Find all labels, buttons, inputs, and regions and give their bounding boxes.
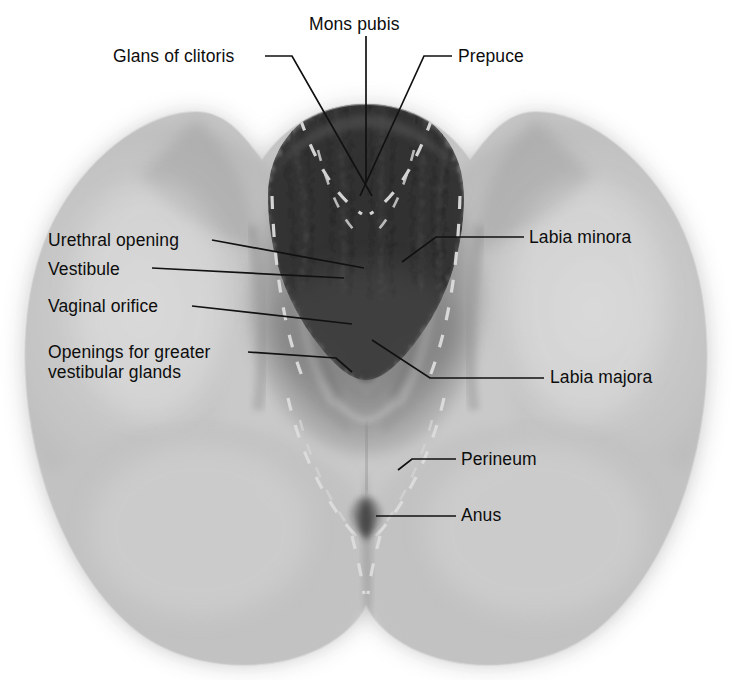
- mons-pubis-region: [270, 264, 462, 396]
- label-labia-majora: Labia majora: [550, 367, 652, 387]
- label-perineum: Perineum: [461, 449, 537, 469]
- label-labia-minora: Labia minora: [529, 227, 631, 247]
- label-prepuce: Prepuce: [458, 46, 524, 66]
- perineum-region: [366, 424, 368, 494]
- vulva-anatomy-illustration: [0, 0, 732, 680]
- label-anus: Anus: [461, 505, 501, 525]
- label-vestibule: Vestibule: [48, 259, 120, 279]
- anatomical-figure: Mons pubis Glans of clitoris Prepuce Ure…: [0, 0, 732, 680]
- label-openings-for-greater-vestibular-glands: Openings for greater vestibular glands: [48, 342, 211, 382]
- label-mons-pubis: Mons pubis: [309, 14, 400, 34]
- label-glans-of-clitoris: Glans of clitoris: [113, 46, 234, 66]
- label-vaginal-orifice: Vaginal orifice: [48, 296, 158, 316]
- label-urethral-opening: Urethral opening: [48, 230, 179, 250]
